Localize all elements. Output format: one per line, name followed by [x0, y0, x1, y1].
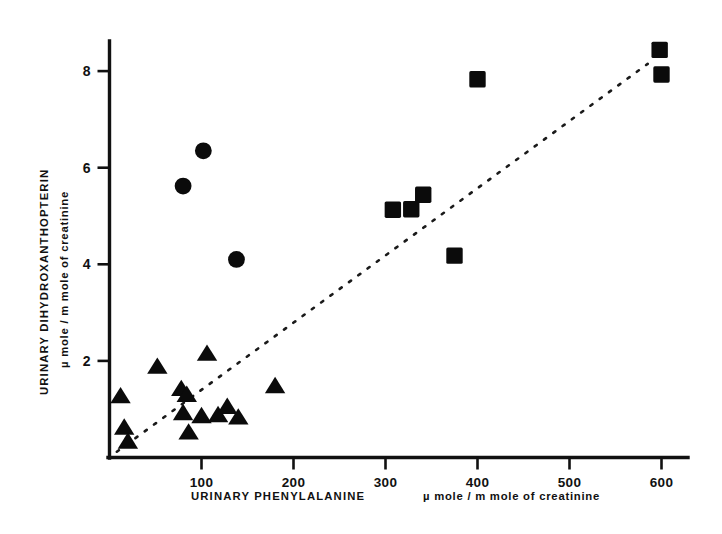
y-axis-units: µ mole / m mole of creatinine: [58, 191, 70, 368]
x-tick-label: 600: [650, 475, 673, 490]
data-point-circle: [228, 251, 245, 268]
data-point-square: [385, 202, 401, 218]
data-point-circle: [195, 142, 212, 159]
data-point-square: [415, 187, 431, 203]
x-tick-label: 100: [190, 475, 213, 490]
x-tick-label: 400: [466, 475, 489, 490]
data-point-square: [403, 201, 419, 217]
x-tick-label: 300: [374, 475, 397, 490]
y-axis-title: URINARY DIHYDROXANTHOPTERIN: [38, 169, 50, 395]
x-tick-label: 200: [282, 475, 305, 490]
data-point-square: [446, 247, 462, 263]
data-point-square: [653, 66, 669, 82]
data-point-square: [469, 71, 485, 87]
scatter-chart: 100200300400500600 2468 URINARY PHENYLAL…: [0, 0, 722, 534]
x-tick-label: 500: [558, 475, 581, 490]
x-axis-title: URINARY PHENYLALANINE: [191, 490, 365, 502]
y-tick-label: 4: [83, 256, 91, 272]
y-tick-label: 8: [83, 63, 91, 79]
data-point-square: [651, 42, 667, 58]
y-tick-label: 6: [83, 160, 91, 176]
x-axis-units: µ mole / m mole of creatinine: [423, 490, 600, 502]
y-tick-label: 2: [83, 353, 91, 369]
data-point-circle: [175, 178, 192, 195]
